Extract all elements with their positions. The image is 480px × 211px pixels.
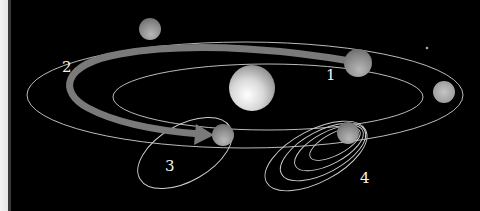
planet-3 bbox=[212, 124, 234, 146]
planet-right bbox=[433, 81, 455, 103]
transfer-arrow bbox=[70, 48, 356, 145]
capture-orbit-3 bbox=[126, 103, 244, 203]
label-4: 4 bbox=[360, 169, 370, 187]
orbit-diagram: 1 2 3 4 bbox=[0, 0, 480, 211]
star-dot bbox=[426, 47, 429, 50]
label-2: 2 bbox=[62, 58, 72, 76]
sun bbox=[229, 65, 275, 111]
label-3: 3 bbox=[165, 157, 175, 175]
planet-4 bbox=[337, 122, 359, 144]
nested-orbits-4 bbox=[254, 107, 377, 205]
label-1: 1 bbox=[326, 66, 336, 84]
planet-1 bbox=[344, 49, 372, 77]
planet-top bbox=[139, 18, 161, 40]
